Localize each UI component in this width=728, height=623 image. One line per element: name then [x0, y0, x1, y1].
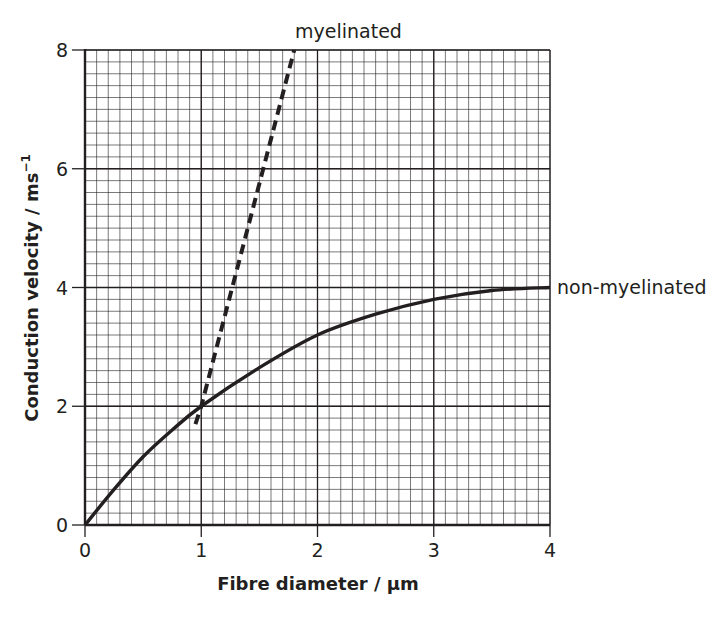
y-tick-label: 6 [56, 158, 68, 180]
y-axis-title-text: Conduction velocity / ms [21, 173, 42, 422]
x-tick-label: 4 [544, 539, 556, 561]
x-tick-label: 0 [79, 539, 91, 561]
y-tick-label: 2 [56, 395, 68, 417]
chart: 0123402468 myelinated non-myelinated Fib… [0, 0, 728, 623]
x-axis-title: Fibre diameter / µm [217, 573, 419, 594]
y-tick-label: 4 [56, 277, 68, 299]
non-myelinated-label: non-myelinated [557, 276, 706, 298]
myelinated-label: myelinated [295, 20, 402, 42]
y-axis-title-superscript: −1 [19, 154, 33, 172]
x-tick-label: 2 [311, 539, 323, 561]
x-tick-label: 3 [428, 539, 440, 561]
svg-text:Conduction velocity / ms−1: Conduction velocity / ms−1 [19, 154, 42, 422]
y-axis-title: Conduction velocity / ms−1 [19, 154, 42, 422]
y-tick-label: 8 [56, 39, 68, 61]
myelinated-line [195, 50, 294, 424]
x-tick-label: 1 [195, 539, 207, 561]
y-tick-label: 0 [56, 514, 68, 536]
